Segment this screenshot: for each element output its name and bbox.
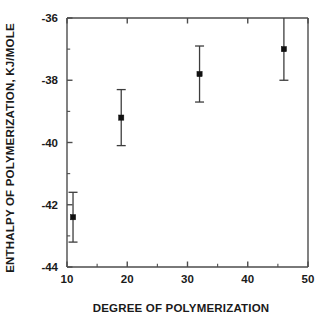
x-tick-label: 30 [181, 273, 194, 285]
x-tick-label: 10 [61, 273, 74, 285]
y-tick-label: -44 [41, 261, 58, 273]
chart-figure: 1020304050 -44-42-40-38-36 DEGREE OF POL… [0, 0, 327, 328]
data-marker [70, 215, 75, 220]
data-marker [281, 47, 286, 52]
scatter-plot: 1020304050 -44-42-40-38-36 DEGREE OF POL… [0, 0, 327, 328]
plot-background [0, 0, 327, 328]
data-marker [119, 115, 124, 120]
x-tick-label: 20 [121, 273, 134, 285]
data-marker [197, 71, 202, 76]
x-axis-title: DEGREE OF POLYMERIZATION [93, 302, 270, 314]
x-tick-label: 40 [241, 273, 254, 285]
x-tick-label: 50 [302, 273, 315, 285]
y-tick-label: -38 [41, 74, 58, 86]
y-tick-label: -42 [41, 199, 58, 211]
y-tick-label: -40 [41, 137, 58, 149]
y-tick-label: -36 [41, 12, 58, 24]
y-axis-title: ENTHALPY OF POLYMERIZATION, KJ/MOLE [4, 23, 16, 273]
